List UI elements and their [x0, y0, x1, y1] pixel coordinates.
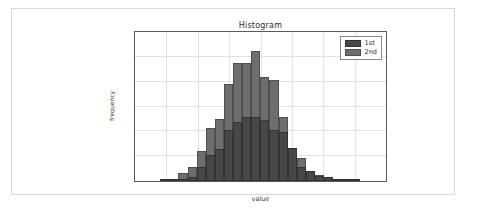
histogram-bar-group: [251, 32, 260, 181]
histogram-bar-1st: [197, 167, 206, 181]
x-tick: [292, 181, 293, 182]
y-tick: [134, 106, 135, 107]
histogram-bar-group: [288, 32, 297, 181]
x-tick: [135, 181, 136, 182]
x-tick: [166, 181, 167, 182]
histogram-bar-1st: [306, 171, 315, 181]
y-tick: [134, 81, 135, 82]
histogram-bar-group: [242, 32, 251, 181]
y-tick: [134, 155, 135, 156]
histogram-bar-group: [315, 32, 324, 181]
histogram-bar-1st: [251, 117, 260, 181]
chart-legend[interactable]: 1st 2nd: [340, 36, 382, 60]
legend-swatch-1st: [345, 40, 361, 47]
histogram-bar-1st: [169, 179, 178, 181]
histogram-bar-group: [224, 32, 233, 181]
histogram-bar-1st: [279, 132, 288, 181]
histogram-bar-1st: [160, 179, 169, 181]
histogram-bar-1st: [333, 179, 342, 181]
histogram-bar-1st: [178, 179, 187, 181]
histogram-bar-1st: [342, 179, 351, 181]
y-tick: [134, 130, 135, 131]
histogram-bar-1st: [242, 117, 251, 181]
legend-label-2nd: 2nd: [365, 49, 377, 56]
histogram-bar-1st: [188, 177, 197, 181]
histogram-bar-group: [324, 32, 333, 181]
histogram-bar-group: [178, 32, 187, 181]
histogram-bar-group: [279, 32, 288, 181]
histogram-bar-1st: [269, 130, 278, 181]
y-tick: [134, 56, 135, 57]
histogram-bar-group: [215, 32, 224, 181]
histogram-bar-group: [188, 32, 197, 181]
legend-item-1st: 1st: [345, 40, 377, 47]
histogram-bar-1st: [324, 177, 333, 181]
histogram-bar-group: [169, 32, 178, 181]
chart-title: Histogram: [134, 21, 387, 30]
histogram-bar-1st: [351, 179, 360, 181]
x-tick: [261, 181, 262, 182]
plot-area: 050100150200250300 -4-3-2-101234 1st 2nd: [134, 31, 387, 182]
histogram-bar-1st: [233, 122, 242, 181]
x-tick: [198, 181, 199, 182]
legend-label-1st: 1st: [365, 40, 375, 47]
legend-swatch-2nd: [345, 49, 361, 56]
histogram-bar-group: [260, 32, 269, 181]
y-tick: [134, 31, 135, 32]
x-tick: [355, 181, 356, 182]
histogram-bar-group: [306, 32, 315, 181]
histogram-bar-1st: [260, 120, 269, 181]
histogram-bar-group: [233, 32, 242, 181]
figure-frame: Histogram 050100150200250300 -4-3-2-1012…: [11, 8, 455, 195]
histogram-bar-group: [269, 32, 278, 181]
histogram-bar-group: [160, 32, 169, 181]
x-tick: [386, 181, 387, 182]
histogram-bar-1st: [206, 155, 215, 181]
histogram-bar-group: [197, 32, 206, 181]
histogram-bar-1st: [288, 148, 297, 181]
x-axis-title: value: [134, 195, 387, 203]
x-tick: [323, 181, 324, 182]
histogram-bar-1st: [224, 130, 233, 181]
histogram-bar-1st: [215, 149, 224, 181]
y-axis-title: frequency: [108, 91, 115, 121]
histogram-bar-group: [206, 32, 215, 181]
x-tick: [229, 181, 230, 182]
histogram-bar-group: [297, 32, 306, 181]
histogram-bar-1st: [297, 167, 306, 181]
legend-item-2nd: 2nd: [345, 49, 377, 56]
